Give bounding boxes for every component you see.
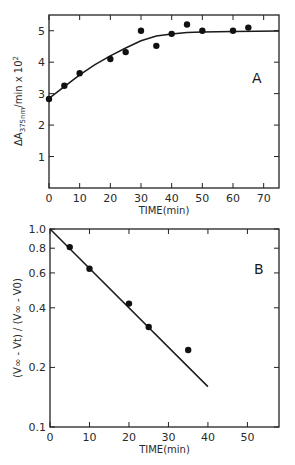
y-axis-title: ΔA375nm/min x 102 — [12, 56, 27, 146]
data-point — [46, 96, 52, 102]
x-tick-label: 20 — [122, 431, 136, 444]
data-point — [199, 28, 205, 34]
data-point — [122, 49, 128, 55]
x-tick-label: 50 — [195, 192, 209, 205]
y-tick-label: 5 — [38, 25, 45, 38]
data-point — [245, 24, 251, 30]
y-tick-label: 0.8 — [29, 242, 47, 255]
y-tick-label: 3 — [38, 88, 45, 101]
chart-b: 010203040500.10.20.40.60.81.0TIME(min)B(… — [12, 223, 279, 455]
figure: 01020304050607012345TIME(min)AΔA375nm/mi… — [0, 0, 295, 465]
x-tick-label: 40 — [165, 192, 179, 205]
x-tick-label: 30 — [134, 192, 148, 205]
y-tick-label: 4 — [38, 56, 45, 69]
x-tick-label: 50 — [240, 431, 254, 444]
data-point — [153, 43, 159, 49]
x-tick-label: 20 — [103, 192, 117, 205]
x-tick-label: 60 — [226, 192, 240, 205]
x-tick-label: 30 — [161, 431, 175, 444]
data-point — [61, 83, 67, 89]
data-point — [138, 28, 144, 34]
data-point — [230, 28, 236, 34]
x-tick-label: 0 — [47, 431, 54, 444]
data-point — [76, 70, 82, 76]
data-point — [146, 324, 152, 330]
x-tick-label: 40 — [201, 431, 215, 444]
y-tick-label: 0.1 — [29, 421, 47, 434]
plot-frame — [49, 15, 279, 188]
x-axis-title: TIME(min) — [138, 444, 190, 455]
y-tick-label: 0.6 — [29, 267, 47, 280]
y-tick-label: 1.0 — [29, 223, 47, 236]
data-point — [126, 300, 132, 306]
fit-line — [49, 31, 279, 98]
y-tick-label: 2 — [38, 119, 45, 132]
x-tick-label: 70 — [257, 192, 271, 205]
y-tick-label: 0.2 — [29, 361, 47, 374]
x-tick-label: 10 — [82, 431, 96, 444]
y-axis-title: (V∞ - Vt) / (V∞ - V0) — [12, 278, 23, 378]
fit-line — [50, 229, 208, 387]
data-point — [184, 21, 190, 27]
x-axis-title: TIME(min) — [138, 205, 190, 216]
y-tick-label: 1 — [38, 151, 45, 164]
data-point — [185, 347, 191, 353]
panel-label-a: A — [252, 70, 262, 86]
data-point — [168, 31, 174, 37]
x-tick-label: 0 — [46, 192, 53, 205]
chart-a: 01020304050607012345TIME(min)AΔA375nm/mi… — [12, 15, 279, 216]
y-tick-label: 0.4 — [29, 302, 47, 315]
data-point — [86, 266, 92, 272]
x-tick-label: 10 — [73, 192, 87, 205]
data-point — [107, 56, 113, 62]
plot-frame — [50, 229, 279, 427]
data-point — [67, 244, 73, 250]
panel-label-b: B — [254, 261, 264, 277]
